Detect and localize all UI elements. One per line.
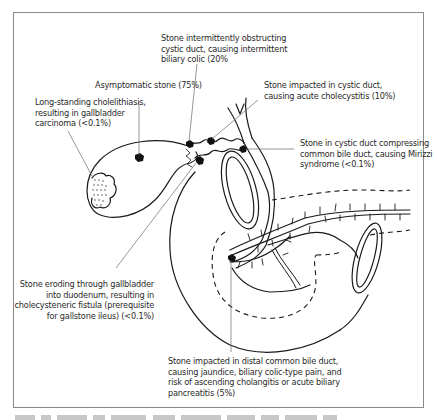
label-line: resulting in gallbladder [35, 108, 146, 119]
leader-carcinoma [68, 131, 92, 176]
cropped-caption-glyphs [13, 413, 424, 420]
duodenal-bulb-outer [214, 147, 266, 233]
label-line: causing acute cholecystitis (10%) [264, 91, 395, 102]
tumor-outline [92, 173, 117, 208]
label-line: risk of ascending cholangitis or acute b… [168, 377, 341, 388]
gallbladder-outline [87, 141, 197, 218]
cystic-duct [188, 138, 244, 146]
label-gallbladder-carcinoma: Long-standing cholelithiasis, resulting … [35, 97, 146, 129]
stone-distal-cbd [228, 254, 236, 262]
label-line: into duodenum, resulting in [15, 290, 154, 301]
label-acute-cholecystitis: Stone impacted in cystic duct, causing a… [264, 80, 395, 101]
label-distal-cbd-impaction: Stone impacted in distal common bile duc… [168, 356, 341, 398]
label-line: pancreatitis (5%) [168, 388, 341, 399]
label-cholecystenteric-fistula: Stone eroding through gallbladder into d… [15, 279, 154, 321]
label-line: causing jaundice, biliary colic-type pai… [168, 367, 341, 378]
label-line: Stone intermittently obstructing [161, 33, 287, 44]
duodenum-ring-outer [346, 220, 388, 296]
label-line: common bile duct, causing Mirizzi [300, 149, 432, 160]
tumor-stipple [92, 179, 106, 205]
label-line: carcinoma (<0.1%) [35, 118, 146, 129]
leader-intermittent [189, 64, 197, 141]
pancreas-outline [272, 190, 410, 200]
label-line: Asymptomatic stone (75%) [95, 80, 202, 91]
label-line: for gallstone ileus) (<0.1%) [15, 311, 154, 322]
label-line: Long-standing cholelithiasis, [35, 97, 146, 108]
label-line: Stone impacted in distal common bile duc… [168, 356, 341, 367]
stone-asymptomatic [135, 153, 144, 162]
leader-cholecystitis [212, 100, 258, 139]
label-line: cholecysteneric fistula (prerequisite [15, 300, 154, 311]
label-intermittent-obstruction: Stone intermittently obstructing cystic … [161, 33, 287, 65]
label-line: cystic duct, causing intermittent [161, 44, 287, 55]
label-line: syndrome (<0.1%) [300, 159, 432, 170]
label-line: Stone in cystic duct compressing [300, 138, 432, 149]
label-line: Stone eroding through gallbladder [15, 279, 154, 290]
stone-intermittent [186, 140, 194, 148]
label-asymptomatic: Asymptomatic stone (75%) [95, 80, 202, 91]
cropped-caption-strip [13, 413, 424, 420]
stone-cholecystitis [207, 137, 215, 145]
label-mirizzi-syndrome: Stone in cystic duct compressing common … [300, 138, 432, 170]
hepatic-duct [228, 98, 252, 143]
label-line: Stone impacted in cystic duct, [264, 80, 395, 91]
label-line: biliary colic (20% [161, 54, 287, 65]
fistula-tract [186, 149, 192, 167]
